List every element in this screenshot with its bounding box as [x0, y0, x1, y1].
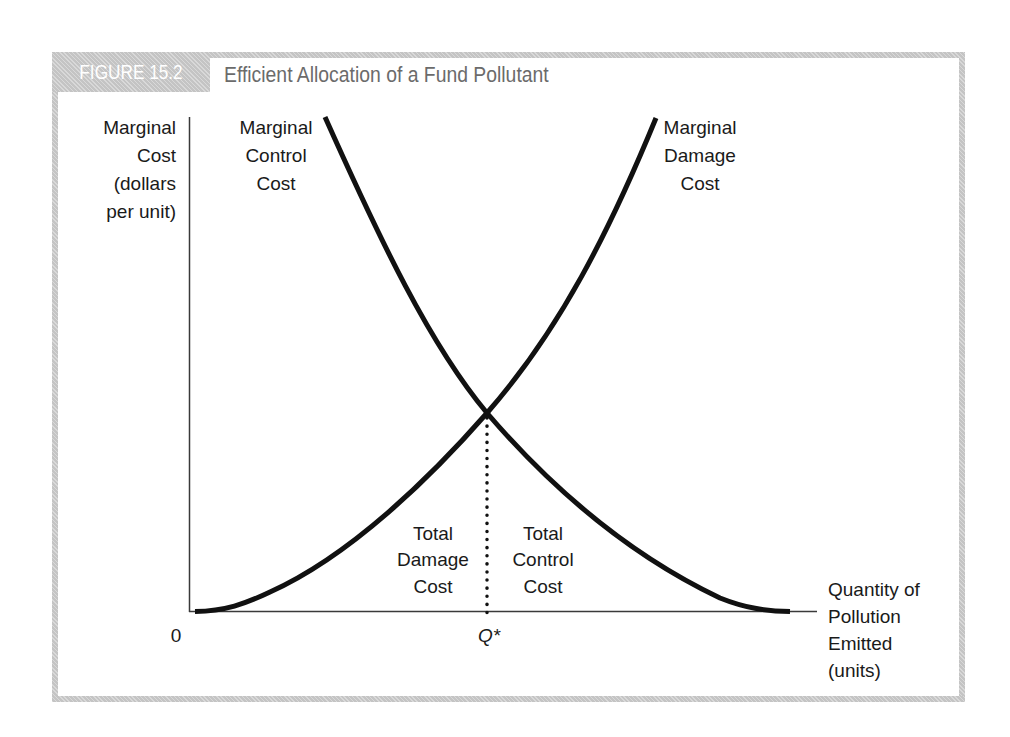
- x-axis-label-line: (units): [828, 660, 881, 681]
- x-axis-label: Quantity of Pollution Emitted (units): [828, 579, 921, 681]
- origin-label: 0: [171, 625, 182, 646]
- total-control-cost-label: Total Control Cost: [512, 523, 573, 597]
- area-label-line: Control: [512, 549, 573, 570]
- q-star-label: Q*: [478, 625, 501, 646]
- y-axis-label-line: Marginal: [103, 117, 176, 138]
- mdc-curve-label: Marginal Damage Cost: [664, 117, 737, 194]
- y-axis-label-line: per unit): [106, 201, 176, 222]
- mdc-label-line: Damage: [664, 145, 736, 166]
- area-label-line: Total: [523, 523, 563, 544]
- x-axis-label-line: Pollution: [828, 606, 901, 627]
- mdc-label-line: Marginal: [664, 117, 737, 138]
- mcc-label-line: Cost: [256, 173, 296, 194]
- y-axis-label-line: (dollars: [114, 173, 176, 194]
- chart-plot: Marginal Cost (dollars per unit) Margina…: [0, 0, 1010, 737]
- mdc-label-line: Cost: [680, 173, 720, 194]
- area-label-line: Total: [413, 523, 453, 544]
- area-label-line: Damage: [397, 549, 469, 570]
- area-label-line: Cost: [413, 576, 453, 597]
- mcc-curve-label: Marginal Control Cost: [240, 117, 313, 194]
- mcc-label-line: Control: [245, 145, 306, 166]
- x-axis-label-line: Emitted: [828, 633, 892, 654]
- area-label-line: Cost: [523, 576, 563, 597]
- total-damage-cost-label: Total Damage Cost: [397, 523, 469, 597]
- x-axis-label-line: Quantity of: [828, 579, 921, 600]
- y-axis-label: Marginal Cost (dollars per unit): [103, 117, 177, 222]
- y-axis-label-line: Cost: [137, 145, 177, 166]
- mcc-label-line: Marginal: [240, 117, 313, 138]
